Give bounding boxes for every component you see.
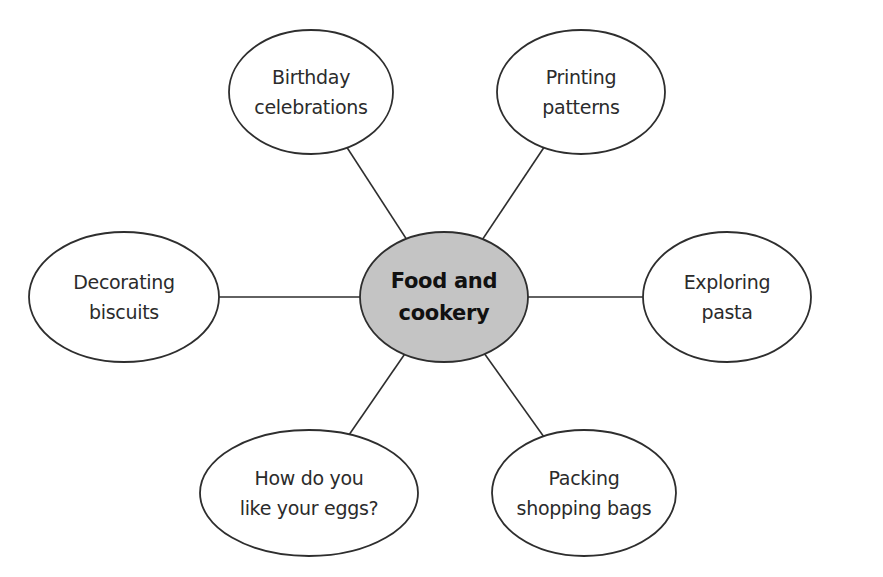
node-label-line1: Birthday (254, 62, 367, 92)
node-label-line1: Exploring (684, 267, 771, 297)
node-label-line1: Printing (542, 62, 619, 92)
node-how-do-you-like-your-eggs: How do you like your eggs? (240, 463, 379, 523)
center-label-line1: Food and (391, 265, 497, 297)
center-label-line2: cookery (391, 297, 497, 329)
node-label-line1: Decorating (73, 267, 175, 297)
node-label-line2: patterns (542, 92, 619, 122)
node-label-line2: like your eggs? (240, 493, 379, 523)
center-node-label: Food and cookery (391, 265, 497, 329)
node-label-line1: How do you (240, 463, 379, 493)
node-exploring-pasta: Exploring pasta (684, 267, 771, 327)
node-packing-shopping-bags: Packing shopping bags (517, 463, 652, 523)
node-printing-patterns: Printing patterns (542, 62, 619, 122)
node-label-line1: Packing (517, 463, 652, 493)
node-label-line2: pasta (684, 297, 771, 327)
node-label-line2: shopping bags (517, 493, 652, 523)
node-decorating-biscuits: Decorating biscuits (73, 267, 175, 327)
node-birthday-celebrations: Birthday celebrations (254, 62, 367, 122)
node-label-line2: celebrations (254, 92, 367, 122)
node-label-line2: biscuits (73, 297, 175, 327)
